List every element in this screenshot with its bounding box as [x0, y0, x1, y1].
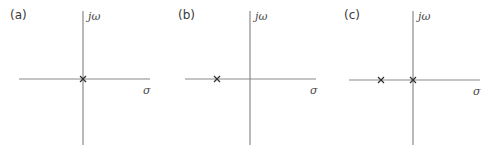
panel-label: (a)	[10, 8, 27, 22]
real-axis-label: σ	[310, 84, 318, 97]
panel-c: (c) jω σ	[344, 8, 481, 145]
s-plane-diagram: (a) jω σ (b) jω σ (c) jω σ	[0, 0, 502, 153]
imaginary-axis-label: jω	[85, 10, 100, 23]
panel-a: (a) jω σ	[10, 8, 151, 145]
panel-b: (b) jω σ	[178, 8, 318, 145]
real-axis-label: σ	[473, 85, 481, 98]
imaginary-axis-label: jω	[252, 10, 267, 23]
panel-label: (c)	[344, 8, 360, 22]
imaginary-axis-label: jω	[415, 10, 430, 23]
panel-label: (b)	[178, 8, 195, 22]
real-axis-label: σ	[143, 84, 151, 97]
